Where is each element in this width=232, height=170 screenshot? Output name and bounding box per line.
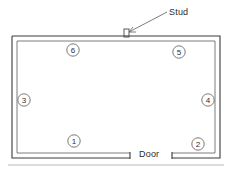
callout-label-2: 2 [196, 140, 201, 149]
room-outer-walls [12, 36, 220, 158]
stud-marker [124, 29, 129, 37]
callout-label-6: 6 [71, 46, 76, 55]
door-label: Door [139, 149, 159, 159]
callout-label-5: 5 [177, 48, 182, 57]
floor-plan-canvas: 1 2 3 4 5 6 [0, 0, 232, 170]
callout-4: 4 [202, 94, 214, 106]
callout-2: 2 [192, 138, 204, 150]
stud-label: Stud [169, 7, 188, 17]
stud-leader-line [129, 12, 167, 32]
callout-6: 6 [67, 44, 79, 56]
callout-label-4: 4 [206, 96, 211, 105]
callout-label-1: 1 [72, 137, 77, 146]
room-inner-walls [17, 41, 215, 153]
callout-3: 3 [18, 94, 30, 106]
callout-5: 5 [173, 46, 185, 58]
floor-plan-diagram: 1 2 3 4 5 6 Stud Door [0, 0, 232, 170]
callout-1: 1 [68, 135, 80, 147]
callout-label-3: 3 [22, 96, 27, 105]
